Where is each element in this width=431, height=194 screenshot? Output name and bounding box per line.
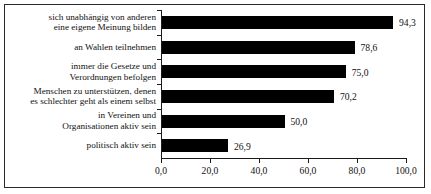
bar-row: 70,2: [162, 90, 407, 103]
x-axis-tick: [161, 159, 162, 163]
bar-value-label: 75,0: [346, 66, 369, 77]
bar: [162, 115, 285, 128]
bar: [162, 90, 334, 103]
x-axis-tick-label: 0,0: [155, 165, 167, 176]
chart-figure: sich unabhängig von anderen eine eigene …: [0, 0, 431, 194]
bar: [162, 139, 228, 152]
bar: [162, 65, 346, 78]
bar-row: 75,0: [162, 65, 407, 78]
bar-value-label: 78,6: [355, 42, 378, 53]
bar-row: 78,6: [162, 41, 407, 54]
category-label: Menschen zu unterstützen, denen es schle…: [8, 86, 156, 107]
x-axis-tick: [259, 159, 260, 163]
bar: [162, 16, 393, 29]
x-axis-tick: [210, 159, 211, 163]
plot-area: 94,378,675,070,250,026,90,020,040,060,08…: [161, 10, 406, 158]
y-axis-line: [161, 10, 162, 158]
x-axis-tick-label: 40,0: [251, 165, 268, 176]
category-label: immer die Gesetze und Verordnungen befol…: [8, 61, 156, 82]
x-axis-tick: [308, 159, 309, 163]
category-label-column: sich unabhängig von anderen eine eigene …: [8, 10, 156, 158]
bar-value-label: 70,2: [334, 91, 357, 102]
bar-row: 26,9: [162, 139, 407, 152]
y-axis-tick: [157, 109, 161, 110]
category-label: an Wahlen teilnehmen: [8, 42, 156, 53]
category-label: politisch aktiv sein: [8, 140, 156, 151]
y-axis-tick: [157, 10, 161, 11]
bar-row: 50,0: [162, 115, 407, 128]
bar-value-label: 50,0: [285, 116, 308, 127]
x-axis-tick: [406, 159, 407, 163]
bar: [162, 41, 355, 54]
x-axis-tick: [357, 159, 358, 163]
x-axis-line: [161, 158, 407, 159]
category-label: sich unabhängig von anderen eine eigene …: [8, 12, 156, 33]
bar-value-label: 26,9: [228, 140, 251, 151]
y-axis-tick: [157, 133, 161, 134]
x-axis-tick-label: 100,0: [395, 165, 417, 176]
x-axis-tick-label: 60,0: [300, 165, 317, 176]
y-axis-tick: [157, 84, 161, 85]
category-label: in Vereinen und Organisationen aktiv sei…: [8, 110, 156, 131]
x-axis-tick-label: 20,0: [202, 165, 219, 176]
y-axis-tick: [157, 59, 161, 60]
y-axis-tick: [157, 35, 161, 36]
x-axis-tick-label: 80,0: [349, 165, 366, 176]
bar-row: 94,3: [162, 16, 407, 29]
bar-value-label: 94,3: [393, 17, 416, 28]
